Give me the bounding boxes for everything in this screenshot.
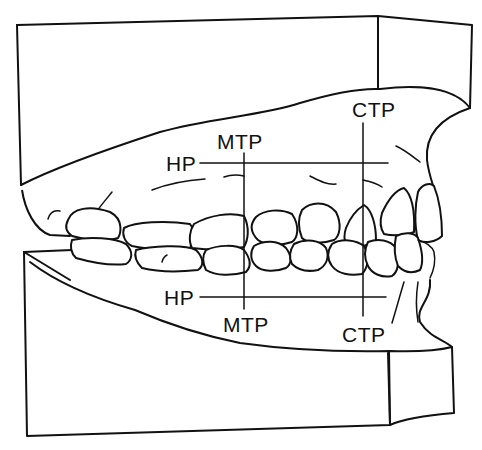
lower-lateral-incisor xyxy=(365,240,398,277)
upper-tooth-3 xyxy=(190,214,248,249)
lower-cast-base xyxy=(24,250,454,436)
label-ctp-lower: CTP xyxy=(342,324,386,345)
label-hp-upper: HP xyxy=(166,153,196,174)
dental-cast-diagram: CTP MTP HP HP MTP CTP xyxy=(0,0,482,450)
lower-tooth-3 xyxy=(203,246,250,275)
lower-premolar-1 xyxy=(251,242,290,271)
label-mtp-lower: MTP xyxy=(223,314,269,335)
upper-central-incisor xyxy=(415,184,442,242)
gingiva-marks-upper xyxy=(97,146,420,211)
lower-tooth-1 xyxy=(71,238,131,265)
lower-canine xyxy=(328,240,367,274)
upper-premolar-2 xyxy=(299,204,340,243)
lower-central-incisor xyxy=(395,233,422,272)
label-hp-lower: HP xyxy=(164,287,194,308)
label-ctp-upper: CTP xyxy=(352,99,396,120)
upper-tooth-2 xyxy=(123,222,194,249)
label-mtp-upper: MTP xyxy=(217,131,263,152)
upper-lateral-incisor xyxy=(381,188,414,235)
lower-tooth-2 xyxy=(135,246,202,271)
gingiva-marks-lower xyxy=(392,282,418,323)
diagram-drawing xyxy=(0,0,482,450)
upper-premolar-1 xyxy=(252,210,298,244)
upper-tooth-1 xyxy=(66,208,120,240)
lower-premolar-2 xyxy=(290,241,328,271)
